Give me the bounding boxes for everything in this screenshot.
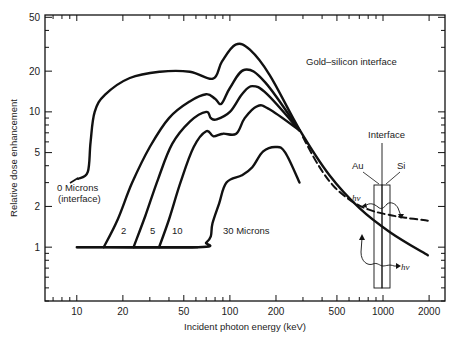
series-label-5: 5: [150, 225, 155, 236]
series-label-2: 2: [121, 225, 126, 236]
y-tick-label: 5: [34, 147, 40, 158]
hv-upper-label: hν: [352, 193, 361, 203]
photon-arrowhead-lower-up: [359, 234, 365, 240]
hv-lower-label: hν: [401, 262, 410, 272]
au-layer: [374, 185, 382, 288]
x-tick-label: 1000: [372, 306, 395, 317]
x-tick-label: 2000: [418, 306, 441, 317]
series-label-30: 30 Microns: [223, 225, 270, 236]
au-label: Au: [352, 160, 364, 171]
x-tick-label: 50: [178, 306, 190, 317]
y-tick-label: 10: [29, 106, 41, 117]
y-tick-label: 2: [34, 201, 40, 212]
x-tick-label: 100: [222, 306, 239, 317]
y-axis-title: Relative dose enhancement: [8, 99, 19, 217]
series-line-2: [134, 86, 300, 247]
x-tick-label: 200: [268, 306, 285, 317]
series-label-0-line2: (interface): [58, 193, 101, 204]
panel-label: Gold–silicon interface: [306, 56, 397, 67]
si-arrow: [386, 172, 400, 184]
x-tick-label: 20: [117, 306, 129, 317]
series-line-5: [303, 137, 428, 221]
interface-label: Interface: [368, 129, 405, 140]
series-line-0: [78, 44, 428, 256]
y-tick-label: 20: [29, 66, 41, 77]
au-arrow: [363, 172, 379, 184]
si-label: Si: [397, 160, 405, 171]
x-tick-label: 500: [329, 306, 346, 317]
curves: [77, 44, 428, 256]
si-layer: [382, 185, 390, 288]
dose-enhancement-chart: 10205010020050010002000 125102050 Incide…: [0, 0, 456, 342]
series-label-0-line1: 0 Microns: [57, 182, 98, 193]
x-axis-title: Incident photon energy (keV): [184, 321, 306, 332]
y-tick-label: 1: [34, 242, 40, 253]
x-tick-label: 10: [71, 306, 83, 317]
y-tick-label: 50: [29, 12, 41, 23]
photon-path-lower: [361, 238, 398, 266]
series-label-10: 10: [172, 225, 183, 236]
